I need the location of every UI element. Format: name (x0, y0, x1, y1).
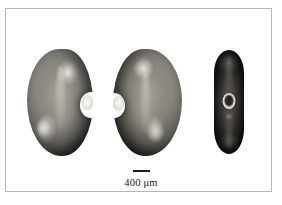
micropyle-marker-3 (225, 114, 233, 120)
seed-highlight-streak-2b (146, 117, 164, 143)
specimen-image-1 (27, 49, 93, 156)
specimen-image-2 (113, 49, 182, 156)
hilum-marker-1 (83, 96, 92, 109)
scale-bar: 400 μm (0, 170, 282, 189)
specimen-image-3 (214, 50, 244, 154)
scale-bar-line (133, 170, 150, 172)
scale-bar-label: 400 μm (0, 177, 282, 189)
figure-plate: 400 μm (0, 0, 282, 205)
hilum-slit-3 (228, 96, 231, 105)
